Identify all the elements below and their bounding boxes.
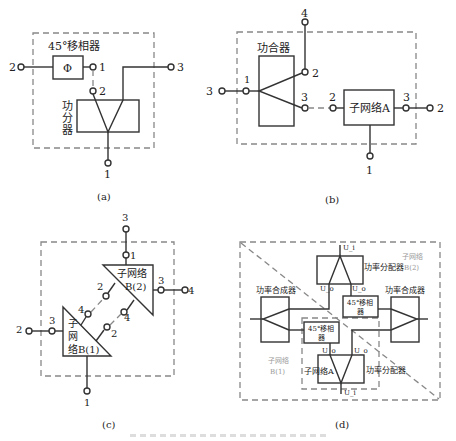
bottom-divider-label: 功率分配器	[366, 365, 406, 375]
port-label: 2	[312, 67, 319, 80]
shifter-upper-label: 45°移相	[347, 298, 373, 307]
panel-c: 子网络 B(2) 3 1 3 4 2 4 子 网 络B(1) 4 2	[16, 212, 194, 430]
port-b-4-top	[302, 19, 308, 25]
port-label: 3	[301, 91, 308, 104]
voltage-label: U_o	[322, 347, 336, 355]
port-c-2-b1	[104, 324, 110, 330]
port-label: 1	[366, 164, 373, 177]
phase-shifter-label: 45°移相器	[48, 40, 101, 53]
port-c-1-b2	[123, 252, 129, 258]
port-label: 2	[99, 85, 106, 98]
port-label: 2	[16, 324, 22, 335]
subnet-b2-label: B(2)	[404, 264, 419, 272]
port-label: 3	[122, 212, 128, 223]
port-label: 3	[177, 61, 184, 74]
port-a-1-shifter	[90, 64, 96, 70]
subnet-b2-label: 子网络	[402, 252, 423, 261]
port-label: 4	[124, 312, 130, 323]
voltage-label: U_o	[352, 285, 366, 293]
port-b-2-combiner	[302, 69, 308, 75]
subnet-b1-label: 子	[68, 318, 78, 329]
subnet-b1-label: 络B(1)	[68, 343, 100, 355]
port-a-3-right	[168, 64, 174, 70]
caption-a: (a)	[97, 191, 111, 202]
port-label: 1	[84, 397, 90, 408]
port-a-1-bottom	[105, 160, 111, 166]
port-label: 1	[244, 74, 250, 85]
panel-d: U_i 功率分配器 子网络 B(2) U_o U_o 45°移相 器 功率合成器…	[240, 242, 440, 430]
panel-b: 功合器 4 2 3 3 1 2 子网络A 3 2 1 (b)	[206, 7, 444, 205]
port-label: 4	[301, 7, 308, 20]
top-divider-label: 功率分配器	[364, 262, 404, 272]
port-label: 3	[206, 85, 213, 98]
power-divider-box	[77, 100, 139, 132]
voltage-label: U_o	[354, 347, 368, 355]
port-c-2-b2	[103, 293, 109, 299]
voltage-label: U_o	[320, 285, 334, 293]
port-b-1-combiner	[243, 88, 249, 94]
port-c-2-left	[26, 328, 32, 334]
subnet-a-label: 子网络A	[304, 366, 334, 376]
port-c-1-bottom	[84, 388, 90, 394]
port-label: 2	[437, 102, 444, 115]
subnet-a-label: 子网络A	[349, 101, 391, 115]
subnet-b1-label: 子网络	[268, 356, 289, 365]
caption-b: (b)	[325, 194, 339, 205]
port-b-2-subnet	[330, 105, 336, 111]
diagram-canvas: 45°移相器 Φ 2 1 2 功 分 器 3 1 (a) 功合器 4	[0, 0, 456, 441]
divider-label: 器	[62, 124, 73, 137]
port-label: 2	[329, 91, 336, 104]
subnet-b2-label: B(2)	[125, 281, 147, 292]
subnet-b1-label: B(1)	[270, 368, 285, 376]
port-c-3-b2	[158, 287, 164, 293]
port-label: 2	[97, 281, 103, 292]
port-b-3-left	[219, 88, 225, 94]
combiner-label: 功合器	[257, 41, 290, 55]
shifter-lower-label: 器	[318, 334, 325, 342]
right-combiner-label: 功率合成器	[385, 285, 425, 295]
port-label: 2	[111, 328, 117, 339]
caption-c: (c)	[102, 419, 116, 430]
port-label: 4	[78, 304, 84, 315]
combiner-box	[259, 56, 294, 126]
port-label: 2	[9, 61, 16, 74]
panel-a: 45°移相器 Φ 2 1 2 功 分 器 3 1 (a)	[9, 33, 184, 202]
subnet-b2-label: 子网络	[117, 267, 147, 279]
port-label: 4	[188, 285, 194, 296]
shifter-lower-label: 45°移相	[308, 324, 334, 333]
port-a-2-divider	[90, 88, 96, 94]
figure-caption-cropped	[130, 434, 330, 437]
port-label: 1	[99, 61, 106, 74]
port-label: 1	[104, 168, 111, 181]
voltage-label: U_i	[343, 244, 355, 252]
top-divider-box	[317, 256, 363, 284]
voltage-label: U_i	[344, 389, 356, 397]
port-a-2-left	[18, 64, 24, 70]
subnet-b1-label: 网	[68, 331, 78, 342]
port-c-3-top	[123, 226, 129, 232]
port-b-2-right	[427, 105, 433, 111]
port-c-3-b1	[49, 328, 55, 334]
left-combiner-label: 功率合成器	[256, 285, 296, 295]
port-label: 3	[403, 91, 410, 104]
port-label: 3	[158, 275, 164, 286]
port-c-4-b1	[85, 311, 91, 317]
caption-d: (d)	[335, 419, 349, 430]
port-b-1-bottom	[367, 153, 373, 159]
phi-symbol: Φ	[63, 62, 72, 75]
port-b-3-combiner	[302, 105, 308, 111]
shifter-upper-label: 器	[357, 308, 364, 316]
port-b-3-subnet	[403, 105, 409, 111]
port-label: 3	[49, 315, 55, 326]
port-label: 1	[130, 250, 136, 261]
